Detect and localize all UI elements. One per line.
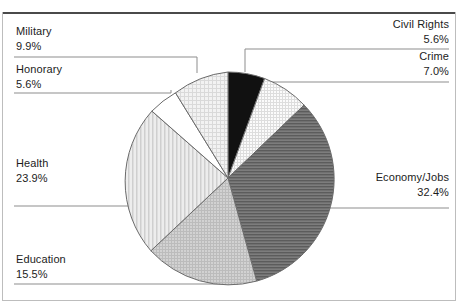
pie-label-civil-rights-value: 5.6% (393, 32, 449, 47)
pie-label-honorary-name: Honorary (16, 62, 62, 77)
pie-slices (125, 72, 334, 285)
pie-label-military-name: Military (16, 24, 52, 39)
pie-label-health: Health 23.9% (16, 156, 48, 186)
pie-label-crime-name: Crime (419, 49, 449, 64)
pie-label-crime: Crime 7.0% (419, 49, 449, 79)
pie-label-education: Education 15.5% (16, 252, 66, 282)
pie-chart-page: Civil Rights 5.6% Crime 7.0% Economy/Job… (0, 0, 458, 303)
pie-label-military: Military 9.9% (16, 24, 52, 54)
pie-label-military-value: 9.9% (16, 39, 52, 54)
pie-chart-figure (0, 0, 458, 303)
pie-label-crime-value: 7.0% (419, 64, 449, 79)
pie-label-education-name: Education (16, 252, 66, 267)
pie-label-civil-rights: Civil Rights 5.6% (393, 17, 449, 47)
pie-label-health-value: 23.9% (16, 171, 48, 186)
pie-label-health-name: Health (16, 156, 48, 171)
pie-label-economy-jobs-name: Economy/Jobs (376, 170, 449, 185)
pie-label-honorary: Honorary 5.6% (16, 62, 62, 92)
pie-label-honorary-value: 5.6% (16, 77, 62, 92)
pie-label-civil-rights-name: Civil Rights (393, 17, 449, 32)
pie-label-economy-jobs-value: 32.4% (376, 185, 449, 200)
pie-label-economy-jobs: Economy/Jobs 32.4% (376, 170, 449, 200)
pie-label-education-value: 15.5% (16, 267, 66, 282)
